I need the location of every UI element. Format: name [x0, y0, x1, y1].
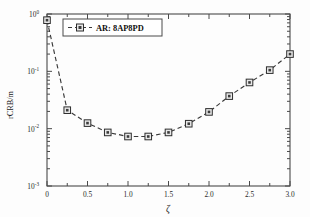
x-tick-label: 1.5: [164, 190, 174, 199]
chart-figure: 10010-110-210-3 00.51.01.52.02.53.0 rCRB…: [0, 0, 310, 217]
y-tick-label: 10-1: [27, 66, 39, 76]
y-tick-exponent: -1: [35, 66, 40, 72]
x-tick-label: 0.5: [83, 190, 93, 199]
legend-label-ar-8ap8pd: AR: 8AP8PD: [96, 24, 144, 33]
plot-frame: [47, 14, 290, 186]
data-point-core: [106, 131, 109, 134]
chart-legend[interactable]: AR: 8AP8PD: [63, 19, 162, 36]
y-axis-title: rCRB/m: [6, 90, 15, 118]
data-point-core: [147, 135, 150, 138]
y-tick-exponent: 0: [36, 9, 39, 15]
data-point-core: [187, 122, 190, 125]
x-tick-label: 3.0: [285, 190, 295, 199]
data-point-core: [86, 122, 89, 125]
x-axis-ticks: 00.51.01.52.02.53.0: [45, 14, 295, 199]
data-point-core: [46, 19, 49, 22]
data-point-core: [268, 69, 271, 72]
y-tick-label: 10-2: [27, 123, 39, 133]
x-tick-label: 0: [45, 190, 49, 199]
x-tick-label: 1.0: [123, 190, 133, 199]
data-point-core: [289, 53, 292, 56]
series-line-0: [47, 20, 290, 136]
data-point-core: [248, 81, 251, 84]
data-point-core: [208, 111, 211, 114]
x-tick-label: 2.0: [204, 190, 214, 199]
y-tick-exponent: -2: [35, 123, 40, 129]
data-point-core: [228, 95, 231, 98]
y-tick-label: 100: [29, 9, 39, 19]
x-tick-label: 2.5: [245, 190, 255, 199]
line-chart-svg: 10010-110-210-3 00.51.01.52.02.53.0 rCRB…: [0, 0, 310, 217]
legend-marker-core: [79, 26, 82, 29]
data-point-core: [127, 135, 130, 138]
data-point-core: [66, 109, 69, 112]
x-axis-title: ζ: [166, 204, 171, 215]
data-point-core: [167, 131, 170, 134]
y-tick-label: 10-3: [27, 181, 39, 191]
y-tick-exponent: -3: [35, 181, 40, 187]
